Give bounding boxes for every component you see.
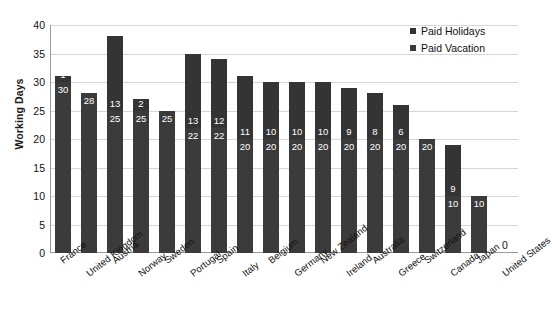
legend-swatch-icon bbox=[410, 45, 416, 51]
bar-segment-value-label: 20 bbox=[393, 141, 409, 152]
bar-stack[interactable]: 620 bbox=[393, 105, 409, 253]
bar-slot[interactable]: 130 bbox=[55, 25, 71, 253]
bar-segment-value-label: 9 bbox=[445, 183, 461, 194]
bar-segment-paid-holidays[interactable]: 2 bbox=[133, 99, 149, 110]
bar-segment-value-label: 20 bbox=[263, 141, 279, 152]
bar-segment-paid-holidays[interactable]: 11 bbox=[237, 76, 253, 139]
legend-swatch-icon bbox=[410, 28, 416, 34]
bar-stack[interactable]: 820 bbox=[367, 93, 383, 253]
bar-segment-paid-vacation[interactable]: 22 bbox=[211, 128, 227, 253]
bar-stack[interactable]: 1020 bbox=[289, 82, 305, 253]
bar-segment-paid-vacation[interactable]: 20 bbox=[419, 139, 435, 253]
y-axis-tick-label: 20 bbox=[3, 133, 45, 145]
y-axis-tick-label: 40 bbox=[3, 19, 45, 31]
bar-slot[interactable]: 1222 bbox=[211, 25, 227, 253]
bar-stack[interactable]: 1222 bbox=[211, 59, 227, 253]
y-axis-tick-label: 10 bbox=[3, 190, 45, 202]
bar-segment-value-label: 10 bbox=[289, 126, 305, 137]
bar-segment-value-label: 10 bbox=[471, 198, 487, 209]
bar-segment-value-label: 8 bbox=[367, 126, 383, 137]
bar-segment-paid-holidays[interactable]: 13 bbox=[185, 54, 201, 128]
bar-slot[interactable]: 1120 bbox=[237, 25, 253, 253]
bar-slot[interactable]: 28 bbox=[81, 25, 97, 253]
bar-segment-paid-holidays[interactable]: 10 bbox=[289, 82, 305, 139]
bar-segment-paid-vacation[interactable]: 20 bbox=[263, 139, 279, 253]
legend-label: Paid Vacation bbox=[421, 42, 485, 54]
bar-segment-paid-holidays[interactable]: 6 bbox=[393, 105, 409, 139]
bar-slot[interactable]: 20 bbox=[419, 25, 435, 253]
bar-segment-value-label: 13 bbox=[185, 115, 201, 126]
y-axis-tick-label: 25 bbox=[3, 105, 45, 117]
bar-slot[interactable]: 1322 bbox=[185, 25, 201, 253]
bar-slot[interactable]: 0 bbox=[497, 25, 513, 253]
bar-segment-value-label: 20 bbox=[237, 141, 253, 152]
bar-segment-value-label: 20 bbox=[419, 141, 435, 152]
bar-slot[interactable]: 225 bbox=[133, 25, 149, 253]
bar-slot[interactable]: 920 bbox=[341, 25, 357, 253]
bar-segment-value-label: 11 bbox=[237, 126, 253, 137]
bar-segment-paid-vacation[interactable]: 25 bbox=[107, 111, 123, 254]
bar-stack[interactable]: 1322 bbox=[185, 54, 201, 253]
y-axis-tick-label: 35 bbox=[3, 48, 45, 60]
bars-layer: 1302813252252513221222112010201020102092… bbox=[50, 25, 518, 253]
bar-stack[interactable]: 20 bbox=[419, 139, 435, 253]
bar-segment-value-label: 25 bbox=[107, 113, 123, 124]
x-axis-tick-label: Italy bbox=[240, 259, 261, 279]
bar-segment-paid-vacation[interactable]: 20 bbox=[367, 139, 383, 253]
bar-segment-paid-vacation[interactable]: 20 bbox=[237, 139, 253, 253]
bar-slot[interactable]: 1020 bbox=[289, 25, 305, 253]
bar-segment-paid-holidays[interactable]: 10 bbox=[315, 82, 331, 139]
y-axis-tick-label: 5 bbox=[3, 219, 45, 231]
bar-stack[interactable]: 130 bbox=[55, 76, 71, 253]
bar-segment-value-label: 20 bbox=[367, 141, 383, 152]
y-axis-tick-label: 30 bbox=[3, 76, 45, 88]
bar-slot[interactable]: 1325 bbox=[107, 25, 123, 253]
bar-segment-paid-holidays[interactable]: 10 bbox=[263, 82, 279, 139]
bar-segment-value-label: 28 bbox=[81, 95, 97, 106]
bar-segment-paid-vacation[interactable]: 28 bbox=[81, 93, 97, 253]
bar-stack[interactable]: 1120 bbox=[237, 76, 253, 253]
bar-segment-value-label: 10 bbox=[315, 126, 331, 137]
bar-segment-value-label: 20 bbox=[315, 141, 331, 152]
bar-segment-value-label: 10 bbox=[445, 198, 461, 209]
bar-stack[interactable]: 25 bbox=[159, 111, 175, 254]
bar-segment-value-label: 10 bbox=[263, 126, 279, 137]
bar-segment-paid-holidays[interactable]: 9 bbox=[445, 145, 461, 196]
bar-stack[interactable]: 28 bbox=[81, 93, 97, 253]
legend-item[interactable]: Paid Vacation bbox=[410, 41, 535, 54]
bar-segment-paid-vacation[interactable]: 20 bbox=[315, 139, 331, 253]
bar-slot[interactable]: 25 bbox=[159, 25, 175, 253]
bar-segment-paid-holidays[interactable]: 8 bbox=[367, 93, 383, 139]
chart-legend: Paid HolidaysPaid Vacation bbox=[410, 24, 535, 58]
bar-slot[interactable]: 10 bbox=[471, 25, 487, 253]
bar-slot[interactable]: 910 bbox=[445, 25, 461, 253]
bar-stack[interactable]: 1020 bbox=[315, 82, 331, 253]
bar-segment-paid-vacation[interactable]: 22 bbox=[185, 128, 201, 253]
bar-stack[interactable]: 1020 bbox=[263, 82, 279, 253]
bar-stack[interactable]: 1325 bbox=[107, 36, 123, 253]
bar-segment-paid-holidays[interactable]: 12 bbox=[211, 59, 227, 127]
bar-segment-paid-vacation[interactable]: 30 bbox=[55, 82, 71, 253]
bar-segment-value-label: 25 bbox=[133, 113, 149, 124]
bar-segment-value-label: 12 bbox=[211, 115, 227, 126]
bar-segment-paid-holidays[interactable]: 13 bbox=[107, 36, 123, 110]
bar-segment-value-label: 9 bbox=[341, 126, 357, 137]
bar-stack[interactable]: 10 bbox=[471, 196, 487, 253]
bar-segment-value-label: 20 bbox=[341, 141, 357, 152]
bar-slot[interactable]: 620 bbox=[393, 25, 409, 253]
bar-segment-value-label: 13 bbox=[107, 98, 123, 109]
bar-segment-paid-vacation[interactable]: 10 bbox=[471, 196, 487, 253]
legend-item[interactable]: Paid Holidays bbox=[410, 24, 535, 37]
bar-segment-value-label: 30 bbox=[55, 84, 71, 95]
bar-slot[interactable]: 1020 bbox=[263, 25, 279, 253]
bar-segment-paid-vacation[interactable]: 25 bbox=[159, 111, 175, 254]
y-axis-tick-label: 15 bbox=[3, 162, 45, 174]
bar-segment-value-label: 22 bbox=[211, 130, 227, 141]
bar-segment-value-label: 2 bbox=[133, 98, 149, 109]
bar-segment-value-label: 1 bbox=[55, 69, 71, 80]
x-axis-tick-labels: FranceUnited KingdomAustriaNorwaySwedenP… bbox=[50, 253, 518, 330]
bar-segment-paid-holidays[interactable]: 9 bbox=[341, 88, 357, 139]
bar-slot[interactable]: 1020 bbox=[315, 25, 331, 253]
bar-slot[interactable]: 820 bbox=[367, 25, 383, 253]
